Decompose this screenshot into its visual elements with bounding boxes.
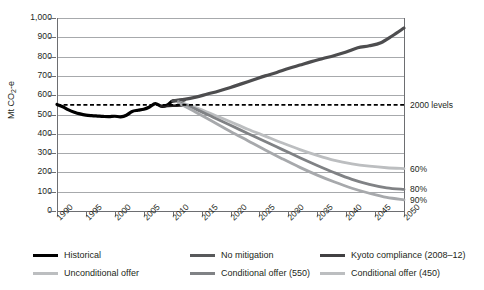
legend-swatch-icon <box>320 254 345 257</box>
legend-swatch-icon <box>190 254 215 257</box>
series-line <box>173 28 404 101</box>
series-line <box>178 102 404 169</box>
chart-root: 01002003004005006007008009001,000 199019… <box>0 0 484 290</box>
legend-label: Conditional offer (450) <box>351 268 440 278</box>
legend-item[interactable]: Conditional offer (450) <box>320 268 440 278</box>
reference-line-label: 2000 levels <box>410 101 453 110</box>
chart-plot-area: 01002003004005006007008009001,000 199019… <box>0 0 484 232</box>
end-annotation-60pct: 60% <box>410 165 427 174</box>
legend-item[interactable]: No mitigation <box>190 250 274 260</box>
chart-legend: HistoricalUnconditional offerNo mitigati… <box>0 248 484 290</box>
legend-label: Conditional offer (550) <box>221 268 310 278</box>
legend-label: Kyoto compliance (2008–12) <box>351 250 466 260</box>
legend-item[interactable]: Unconditional offer <box>33 268 139 278</box>
legend-swatch-icon <box>33 254 58 257</box>
series-line <box>57 100 184 117</box>
legend-item[interactable]: Historical <box>33 250 101 260</box>
legend-label: No mitigation <box>221 250 274 260</box>
legend-swatch-icon <box>33 272 58 275</box>
legend-label: Unconditional offer <box>64 268 139 278</box>
legend-item[interactable]: Kyoto compliance (2008–12) <box>320 250 466 260</box>
legend-label: Historical <box>64 250 101 260</box>
legend-swatch-icon <box>190 272 215 275</box>
end-annotation-90pct: 90% <box>410 196 427 205</box>
legend-swatch-icon <box>320 272 345 275</box>
end-annotation-80pct: 80% <box>410 185 427 194</box>
legend-item[interactable]: Conditional offer (550) <box>190 268 310 278</box>
